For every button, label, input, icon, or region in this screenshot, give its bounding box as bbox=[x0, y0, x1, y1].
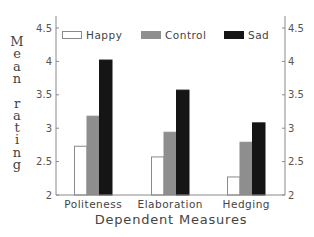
y-tick-label: 4.5 bbox=[36, 23, 52, 34]
legend-swatch bbox=[225, 32, 244, 39]
bar-control bbox=[164, 132, 177, 195]
y-tick-label: 2 bbox=[288, 190, 294, 201]
y-tick-label: 4 bbox=[46, 56, 52, 67]
legend-item-sad: Sad bbox=[225, 29, 270, 41]
x-tick-label: Hedging bbox=[223, 198, 270, 210]
y-tick-label: 4 bbox=[288, 56, 294, 67]
y-tick-label: 3.5 bbox=[288, 89, 304, 100]
bar-group-politeness bbox=[75, 60, 113, 195]
bar-happy bbox=[152, 157, 165, 195]
bar-happy bbox=[228, 177, 241, 195]
y-axis-title-letter: n bbox=[13, 71, 22, 86]
bar-chart: Meanrating 22.533.544.5 22.533.544.5 Hap… bbox=[0, 0, 314, 237]
bar-group-elaboration bbox=[152, 90, 190, 195]
x-tick-label: Politeness bbox=[64, 198, 122, 210]
y-tick-label: 2.5 bbox=[36, 156, 52, 167]
legend-item-happy: Happy bbox=[63, 29, 123, 41]
y-tick-label: 4.5 bbox=[288, 23, 304, 34]
y-axis-title: Meanrating bbox=[10, 34, 23, 172]
y-tick-label: 2 bbox=[46, 190, 52, 201]
y-tick-label: 2.5 bbox=[288, 156, 304, 167]
legend-label: Happy bbox=[86, 29, 122, 41]
y-tick-label: 3 bbox=[288, 123, 294, 134]
x-tick-label: Elaboration bbox=[138, 198, 203, 210]
bar-happy bbox=[75, 146, 88, 195]
legend-label: Control bbox=[165, 29, 206, 41]
legend-item-control: Control bbox=[142, 29, 207, 41]
right-y-axis: 22.533.544.5 bbox=[282, 16, 304, 201]
legend-swatch bbox=[142, 32, 161, 39]
bar-control bbox=[240, 142, 253, 195]
bars bbox=[75, 60, 266, 195]
y-tick-label: 3.5 bbox=[36, 89, 52, 100]
bar-sad bbox=[177, 90, 190, 195]
bar-sad bbox=[100, 60, 113, 195]
legend-swatch bbox=[63, 32, 82, 39]
legend: HappyControlSad bbox=[63, 29, 270, 41]
bar-group-hedging bbox=[228, 123, 266, 195]
y-tick-label: 3 bbox=[46, 123, 52, 134]
left-y-axis: 22.533.544.5 bbox=[36, 16, 59, 201]
y-axis-title-letter: g bbox=[13, 157, 21, 172]
x-axis-title: Dependent Measures bbox=[95, 212, 248, 227]
bar-control bbox=[87, 116, 100, 195]
bar-sad bbox=[253, 123, 266, 195]
legend-label: Sad bbox=[248, 29, 269, 41]
x-axis-category-labels: PolitenessElaborationHedging bbox=[64, 198, 270, 210]
